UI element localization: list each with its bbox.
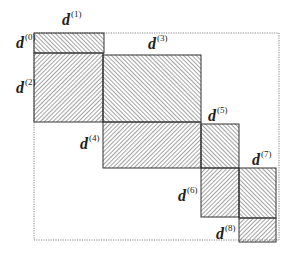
block-d5: [201, 124, 239, 168]
block-d8: [239, 218, 276, 242]
label-superscript: (1): [71, 9, 82, 19]
label-base: d: [208, 107, 216, 124]
label-superscript: (7): [261, 149, 272, 159]
label-superscript: (0): [25, 32, 36, 42]
label-d4: d(4): [80, 136, 100, 152]
block-d3: [103, 55, 201, 122]
label-superscript: (4): [89, 133, 100, 143]
label-base: d: [252, 151, 260, 168]
label-base: d: [80, 135, 88, 152]
block-d2: [34, 53, 103, 122]
label-d0: d(0): [16, 35, 36, 51]
block-d0: [34, 33, 104, 53]
label-d6: d(6): [178, 188, 198, 204]
label-base: d: [62, 11, 70, 28]
label-superscript: (8): [225, 223, 236, 233]
label-base: d: [148, 35, 156, 52]
label-superscript: (3): [157, 33, 168, 43]
block-diagram: [0, 0, 292, 253]
label-d1: d(1): [62, 12, 82, 28]
block-d4: [103, 122, 201, 168]
label-base: d: [16, 34, 24, 51]
label-superscript: (5): [217, 105, 228, 115]
label-base: d: [16, 79, 24, 96]
label-d5: d(5): [208, 108, 228, 124]
label-d8: d(8): [216, 226, 236, 242]
label-base: d: [178, 187, 186, 204]
label-base: d: [216, 225, 224, 242]
label-d7: d(7): [252, 152, 272, 168]
block-d7: [239, 168, 276, 218]
block-d6: [201, 168, 239, 217]
label-superscript: (6): [187, 185, 198, 195]
label-superscript: (2): [25, 77, 36, 87]
label-d2: d(2): [16, 80, 36, 96]
label-d3: d(3): [148, 36, 168, 52]
